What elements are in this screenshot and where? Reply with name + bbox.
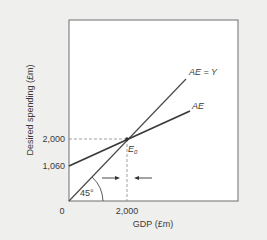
chart: 45° E0 AE = Y AE 2,000 1,060 0 2,000 GDP… bbox=[0, 0, 267, 240]
angle-label: 45° bbox=[80, 188, 94, 198]
y-tick-2000: 2,000 bbox=[42, 134, 65, 144]
x-axis-label: GDP (£m) bbox=[133, 219, 173, 229]
y-tick-1060: 1,060 bbox=[42, 161, 65, 171]
equilibrium-point bbox=[125, 137, 129, 141]
x-tick-2000: 2,000 bbox=[116, 206, 139, 216]
origin-label: 0 bbox=[59, 206, 64, 216]
ae-equals-y-label: AE = Y bbox=[188, 67, 218, 77]
ae-label: AE bbox=[191, 101, 205, 111]
y-axis-label: Desired spending (£m) bbox=[25, 64, 35, 155]
